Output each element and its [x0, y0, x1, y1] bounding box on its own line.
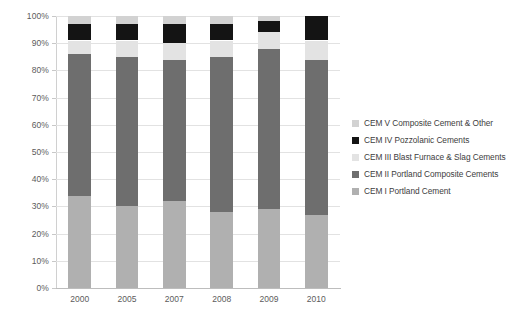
bar-segment[interactable]: [68, 24, 91, 40]
legend-item-label: CEM II Portland Composite Cements: [364, 170, 498, 178]
bar-segment[interactable]: [305, 16, 328, 40]
x-axis-tick-label: 2010: [307, 294, 326, 304]
y-axis-tick-label: 70%: [32, 93, 49, 103]
bar-stack: [210, 16, 233, 288]
y-axis-tick-label: 90%: [32, 38, 49, 48]
y-axis-tick: [52, 288, 56, 289]
bar-segment[interactable]: [305, 60, 328, 215]
x-axis-tick-label: 2005: [118, 294, 137, 304]
bar-group[interactable]: 2009: [258, 16, 281, 288]
legend-swatch-icon: [352, 171, 359, 178]
x-axis-tick-label: 2009: [260, 294, 279, 304]
bar-segment[interactable]: [258, 32, 281, 48]
y-axis-tick-label: 50%: [32, 147, 49, 157]
bar-segment[interactable]: [116, 24, 139, 40]
bar-segment[interactable]: [116, 206, 139, 288]
bar-segment[interactable]: [163, 24, 186, 43]
y-axis-tick-label: 10%: [32, 256, 49, 266]
y-axis-tick-label: 80%: [32, 65, 49, 75]
bar-segment[interactable]: [163, 43, 186, 59]
x-axis-tick-label: 2008: [212, 294, 231, 304]
chart-legend: CEM V Composite Cement & OtherCEM IV Poz…: [352, 115, 508, 200]
bar-segment[interactable]: [116, 16, 139, 24]
legend-swatch-icon: [352, 120, 359, 127]
bar-group[interactable]: 2010: [305, 16, 328, 288]
bar-segment[interactable]: [305, 41, 328, 60]
legend-item-label: CEM I Portland Cement: [364, 187, 451, 195]
bar-group[interactable]: 2007: [163, 16, 186, 288]
y-axis-tick-label: 40%: [32, 174, 49, 184]
y-axis-tick-label: 60%: [32, 120, 49, 130]
legend-swatch-icon: [352, 188, 359, 195]
bar-segment[interactable]: [116, 57, 139, 207]
x-axis-tick-label: 2007: [165, 294, 184, 304]
legend-item-label: CEM V Composite Cement & Other: [364, 119, 493, 127]
bar-segment[interactable]: [68, 54, 91, 195]
legend-item[interactable]: CEM IV Pozzolanic Cements: [352, 132, 508, 149]
bar-group[interactable]: 2005: [116, 16, 139, 288]
bar-stack: [68, 16, 91, 288]
x-axis-tick-label: 2000: [70, 294, 89, 304]
legend-item[interactable]: CEM I Portland Cement: [352, 183, 508, 200]
bar-segment[interactable]: [163, 60, 186, 201]
y-axis-tick-label: 30%: [32, 201, 49, 211]
bar-segment[interactable]: [68, 41, 91, 55]
y-axis-tick-label: 20%: [32, 229, 49, 239]
bar-segment[interactable]: [305, 215, 328, 288]
stacked-bar-chart: 0%10%20%30%40%50%60%70%80%90%100% 200020…: [0, 0, 510, 312]
bar-segment[interactable]: [68, 16, 91, 24]
bar-segment[interactable]: [68, 196, 91, 288]
bar-segment[interactable]: [258, 49, 281, 209]
bar-stack: [163, 16, 186, 288]
bars-layer: 200020052007200820092010: [56, 16, 340, 288]
bar-segment[interactable]: [163, 201, 186, 288]
plot-area: 0%10%20%30%40%50%60%70%80%90%100% 200020…: [56, 16, 340, 288]
legend-swatch-icon: [352, 154, 359, 161]
bar-group[interactable]: 2008: [210, 16, 233, 288]
y-axis-tick-label: 100%: [27, 11, 49, 21]
bar-segment[interactable]: [210, 212, 233, 288]
legend-item[interactable]: CEM V Composite Cement & Other: [352, 115, 508, 132]
bar-stack: [258, 16, 281, 288]
bar-segment[interactable]: [258, 16, 281, 21]
bar-group[interactable]: 2000: [68, 16, 91, 288]
gridline: [56, 288, 340, 289]
bar-segment[interactable]: [258, 209, 281, 288]
bar-segment[interactable]: [210, 57, 233, 212]
legend-item[interactable]: CEM II Portland Composite Cements: [352, 166, 508, 183]
bar-segment[interactable]: [210, 24, 233, 40]
legend-item[interactable]: CEM III Blast Furnace & Slag Cements: [352, 149, 508, 166]
bar-segment[interactable]: [258, 21, 281, 32]
legend-item-label: CEM III Blast Furnace & Slag Cements: [364, 153, 506, 161]
bar-stack: [116, 16, 139, 288]
bar-stack: [305, 16, 328, 288]
bar-segment[interactable]: [210, 16, 233, 24]
bar-segment[interactable]: [116, 41, 139, 57]
bar-segment[interactable]: [210, 41, 233, 57]
bar-segment[interactable]: [163, 16, 186, 24]
legend-item-label: CEM IV Pozzolanic Cements: [364, 136, 469, 144]
legend-swatch-icon: [352, 137, 359, 144]
y-axis-tick-label: 0%: [37, 283, 50, 293]
